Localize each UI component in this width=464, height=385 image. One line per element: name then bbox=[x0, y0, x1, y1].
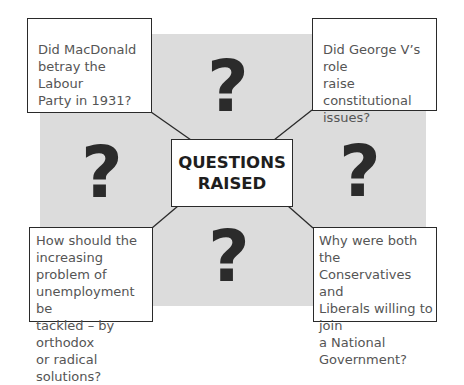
question-box-bottom-left: How should the increasing problem of une… bbox=[29, 227, 153, 322]
question-mark-icon-top: ? bbox=[203, 50, 253, 122]
question-mark-icon-bottom: ? bbox=[204, 220, 254, 292]
center-title-line-1: QUESTIONS bbox=[178, 152, 286, 173]
connector-top-right bbox=[274, 110, 312, 140]
connector-bottom-right bbox=[288, 206, 313, 228]
question-box-top-left: Did MacDonald betray the Labour Party in… bbox=[27, 18, 152, 113]
question-text: How should the increasing problem of une… bbox=[36, 232, 150, 385]
question-mark-icon-right: ? bbox=[335, 135, 385, 207]
center-title-box: QUESTIONS RAISED bbox=[171, 139, 293, 207]
question-box-bottom-right: Why were both the Conservatives and Libe… bbox=[313, 227, 437, 322]
question-text: Did George V’s role raise constitutional… bbox=[323, 41, 426, 126]
question-text: Did MacDonald betray the Labour Party in… bbox=[38, 41, 141, 109]
question-mark-icon-left: ? bbox=[77, 136, 127, 208]
connector-top-left bbox=[151, 112, 191, 140]
question-box-top-right: Did George V’s role raise constitutional… bbox=[312, 18, 437, 111]
question-text: Why were both the Conservatives and Libe… bbox=[319, 232, 434, 368]
connector-bottom-left bbox=[152, 206, 178, 228]
center-title-line-2: RAISED bbox=[198, 173, 266, 194]
